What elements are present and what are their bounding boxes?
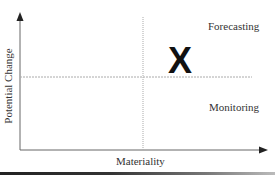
y-axis-arrow-icon [17, 12, 24, 21]
y-axis-label: Potential Change [2, 46, 14, 126]
x-marker: X [168, 43, 192, 79]
x-axis-arrow-icon [259, 147, 268, 154]
quadrant-label-forecasting: Forecasting [208, 20, 259, 32]
quadrant-label-monitoring: Monitoring [209, 101, 259, 113]
x-axis-label: Materiality [116, 155, 165, 167]
bottom-border [0, 172, 275, 175]
